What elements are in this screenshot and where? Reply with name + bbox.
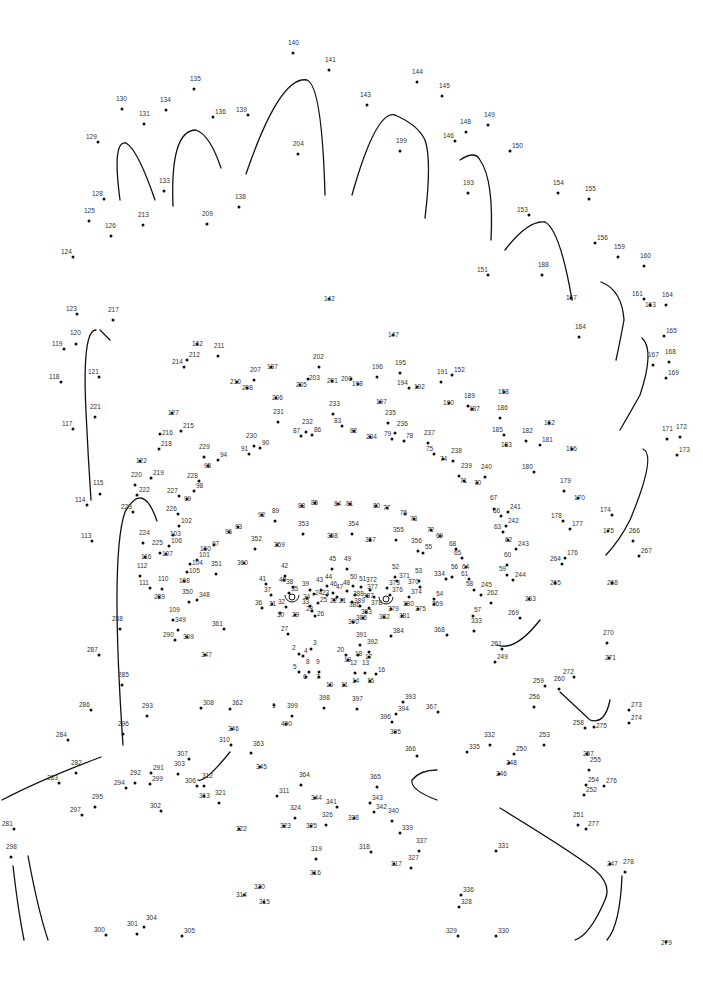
dot-label: 181	[542, 437, 553, 444]
dot-212	[186, 359, 189, 362]
dot-398	[323, 707, 326, 710]
dot-label: 222	[139, 487, 150, 494]
dot-365	[376, 786, 379, 789]
dot-label: 199	[396, 138, 407, 145]
dot-111	[149, 587, 152, 590]
dot-label: 370	[408, 579, 419, 586]
dot-label: 212	[189, 352, 200, 359]
dot-135	[193, 88, 196, 91]
dot-214	[183, 366, 186, 369]
dot-label: 304	[146, 915, 157, 922]
dot-label: 360	[237, 560, 248, 567]
dot-label: 148	[460, 119, 471, 126]
dot-8	[308, 671, 311, 674]
dot-label: 330	[498, 928, 509, 935]
dot-label: 213	[138, 212, 149, 219]
dot-286	[90, 709, 93, 712]
dot-164	[665, 304, 668, 307]
dot-245	[480, 594, 483, 597]
dot-label: 382	[379, 614, 390, 621]
dot-label: 169	[668, 370, 679, 377]
dot-label: 126	[105, 223, 116, 230]
dot-123	[76, 313, 79, 316]
dot-129	[97, 141, 100, 144]
dot-232	[305, 431, 308, 434]
dot-label: 36	[255, 600, 262, 607]
dot-297	[81, 814, 84, 817]
dot-label: 167	[648, 352, 659, 359]
dot-89	[274, 520, 277, 523]
dot-134	[165, 109, 168, 112]
dot-39	[309, 589, 312, 592]
dot-label: 276	[606, 778, 617, 785]
guide-stroke	[620, 338, 648, 430]
guide-stroke	[412, 770, 437, 800]
dot-label: 324	[290, 805, 301, 812]
dot-255	[588, 769, 591, 772]
dot-label: 59	[499, 566, 506, 573]
dot-304	[143, 926, 146, 929]
guide-stroke	[173, 130, 221, 206]
dot-label: 238	[451, 448, 462, 455]
dot-label: 347	[201, 652, 212, 659]
dot-label: 218	[161, 441, 172, 448]
dot-231	[277, 421, 280, 424]
dot-45	[331, 568, 334, 571]
dot-label: 45	[329, 556, 336, 563]
dot-272	[573, 676, 576, 679]
dot-9	[318, 671, 321, 674]
dot-label: 137	[267, 364, 278, 371]
dot-label: 325	[306, 823, 317, 830]
dot-226	[177, 513, 180, 516]
dot-label: 356	[411, 538, 422, 545]
dot-label: 143	[360, 92, 371, 99]
dot-150	[509, 150, 512, 153]
dot-label: 98	[196, 483, 203, 490]
dot-label: 68	[449, 541, 456, 548]
dot-374	[408, 596, 411, 599]
dot-218	[158, 448, 161, 451]
dot-label: 105	[189, 568, 200, 575]
dot-label: 269	[508, 610, 519, 617]
dot-label: 270	[603, 630, 614, 637]
dot-label: 219	[153, 470, 164, 477]
dot-156	[594, 242, 597, 245]
dot-label: 362	[232, 700, 243, 707]
dot-label: 279	[661, 940, 672, 947]
dot-label: 203	[309, 375, 320, 382]
dot-label: 3	[313, 640, 317, 647]
dot-label: 245	[481, 582, 492, 589]
dot-label: 337	[416, 838, 427, 845]
dot-to-dot-canvas: 1234567891011121314151617181920212223242…	[0, 0, 703, 985]
dot-label: 318	[359, 844, 370, 851]
dot-252	[583, 794, 586, 797]
dot-37	[270, 594, 273, 597]
dot-98	[193, 490, 196, 493]
dot-label: 295	[92, 794, 103, 801]
dot-label: 254	[588, 777, 599, 784]
dot-397	[356, 708, 359, 711]
dot-269	[519, 617, 522, 620]
dot-label: 158	[498, 389, 509, 396]
dot-110	[161, 588, 164, 591]
dot-label: 227	[167, 488, 178, 495]
dot-label: 297	[70, 807, 81, 814]
dot-label: 277	[588, 821, 599, 828]
dot-label: 22	[330, 598, 337, 605]
dot-173	[676, 454, 679, 457]
dot-label: 210	[230, 379, 241, 386]
dot-label: 165	[666, 328, 677, 335]
dot-224	[142, 542, 145, 545]
dot-242	[505, 525, 508, 528]
dot-296	[122, 733, 125, 736]
dot-label: 139	[236, 107, 247, 114]
dot-196	[376, 376, 379, 379]
dot-367	[437, 711, 440, 714]
dot-46	[332, 592, 335, 595]
dot-label: 257	[583, 751, 594, 758]
dot-label: 125	[84, 208, 95, 215]
dot-219	[150, 477, 153, 480]
dot-label: 39	[302, 581, 309, 588]
dot-label: 163	[645, 302, 656, 309]
dot-350	[188, 601, 191, 604]
